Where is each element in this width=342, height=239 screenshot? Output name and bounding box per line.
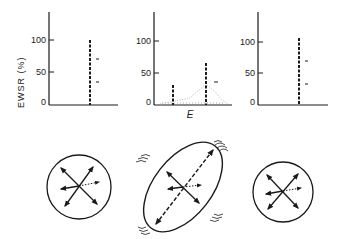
tick-0: 0 bbox=[250, 97, 255, 107]
figure-canvas: EWSR (%) 100 50 0 100 50 0 E 100 bbox=[0, 0, 342, 239]
tick-100: 100 bbox=[31, 35, 46, 45]
tick-0: 0 bbox=[146, 97, 151, 107]
deformed-nucleus-middle bbox=[128, 128, 238, 239]
tick-50: 50 bbox=[141, 68, 151, 78]
panel-left-spectrum: 100 50 0 bbox=[31, 12, 118, 107]
tick-50: 50 bbox=[245, 68, 255, 78]
continuum-background bbox=[160, 85, 228, 104]
y-axis-label: EWSR (%) bbox=[16, 57, 26, 109]
x-axis-label: E bbox=[187, 109, 194, 120]
spherical-nucleus-right bbox=[253, 162, 313, 222]
tick-0: 0 bbox=[41, 97, 46, 107]
panel-middle-spectrum: 100 50 0 E bbox=[136, 12, 232, 120]
tick-100: 100 bbox=[136, 36, 151, 46]
arrow-icon bbox=[168, 187, 183, 189]
arrow-icon bbox=[61, 186, 79, 189]
tick-50: 50 bbox=[36, 67, 46, 77]
spherical-nucleus-left bbox=[47, 155, 111, 219]
tick-100: 100 bbox=[240, 37, 255, 47]
panel-right-spectrum: 100 50 0 bbox=[240, 12, 328, 107]
